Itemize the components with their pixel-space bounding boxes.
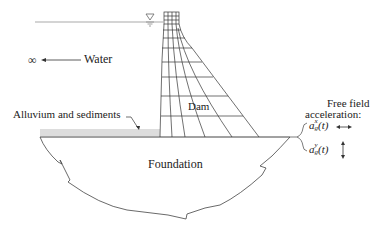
dam-mesh: [160, 12, 259, 137]
accel-x-arg: (t): [318, 119, 328, 131]
foundation-outline: [40, 137, 290, 219]
sediment-leader: [126, 117, 138, 128]
foundation-label: Foundation: [148, 157, 203, 172]
accel-y-label: ayg(t): [309, 143, 328, 156]
infinity-symbol: ∞: [28, 53, 37, 68]
accel-y-arg: (t): [318, 143, 328, 155]
horizontal-motion-icon: [336, 125, 352, 129]
water-label: Water: [84, 52, 112, 67]
sediment-layer: [40, 129, 160, 136]
alluvium-label: Alluvium and sediments: [13, 108, 121, 120]
water-arrow-icon: [41, 58, 81, 62]
vertical-motion-icon: [341, 141, 345, 159]
free-field-bracket: [290, 123, 307, 151]
dam-label: Dam: [188, 100, 209, 112]
accel-x-label: axg(t): [309, 119, 328, 132]
water-level-icon: [146, 14, 154, 26]
